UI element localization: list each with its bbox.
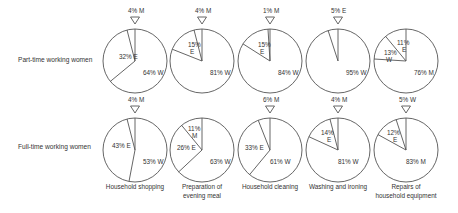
slice-label: 76% M (414, 69, 434, 76)
slice-label: 14% (321, 129, 334, 136)
pointer-triangle-icon (198, 17, 207, 24)
small-slice-label: 5% E (331, 7, 346, 14)
pie-2-5: 83% M12%E5% W (374, 96, 438, 182)
slice-label: 43% E (112, 142, 131, 149)
pie-2-3: 61% W33% E6% M (238, 96, 302, 182)
slice-label: 33% E (245, 144, 264, 151)
slice-label: 32% E (119, 53, 138, 60)
pie-1-4: 95% W5% E (306, 7, 370, 93)
pie-1-5: 76% M11%E13%W (374, 29, 438, 93)
pie-2-4: 81% W14%E4% M (306, 96, 370, 182)
column-label: Repairs ofhousehold equipment (366, 183, 446, 200)
small-slice-label: 6% M (263, 96, 279, 103)
slice-label: 26% E (177, 144, 196, 151)
slice-label: 81% W (210, 69, 232, 76)
pie-1-1: 64% W32% E4% M (103, 7, 167, 93)
slice-label: M (192, 132, 197, 139)
slice-label: 95% W (346, 69, 368, 76)
slice-label: 64% W (143, 69, 165, 76)
pointer-triangle-icon (131, 106, 140, 113)
slice-label: 15% (258, 41, 271, 48)
pie-1-3: 84% W15%E1% M (238, 7, 302, 93)
slice-label: E (393, 136, 397, 143)
slice-label: 83% M (406, 158, 426, 165)
slice-label: 61% W (270, 158, 292, 165)
pie-2-1: 53% W43% E4% M (103, 96, 167, 182)
slice-label: 13% (384, 49, 397, 56)
small-slice-label: 4% M (331, 96, 347, 103)
slice-label: 11% (188, 125, 201, 132)
small-slice-label: 5% W (399, 96, 417, 103)
pie-2-2: 63% W26% E11%M (170, 118, 234, 182)
pointer-triangle-icon (334, 106, 343, 113)
slice-label: 84% W (278, 69, 300, 76)
pointer-triangle-icon (266, 106, 275, 113)
slice-label: 15% (188, 41, 201, 48)
slice-label: W (386, 56, 393, 63)
slice-label: E (190, 48, 194, 55)
small-slice-label: 4% M (195, 7, 211, 14)
slice-label: 81% W (338, 158, 360, 165)
slice-label: 12% (387, 129, 400, 136)
slice-label: 63% W (210, 158, 232, 165)
slice-label: E (260, 48, 264, 55)
pointer-triangle-icon (334, 17, 343, 24)
slice-label: E (402, 46, 406, 53)
pie-chart-grid: 64% W32% E4% M81% W15%E4% M84% W15%E1% M… (0, 0, 458, 213)
pointer-triangle-icon (131, 17, 140, 24)
slice-label: 11% (397, 39, 410, 46)
small-slice-label: 4% M (128, 7, 144, 14)
pointer-triangle-icon (402, 106, 411, 113)
small-slice-label: 4% M (128, 96, 144, 103)
small-slice-label: 1% M (263, 7, 279, 14)
slice-label: 53% W (143, 158, 165, 165)
pointer-triangle-icon (266, 17, 275, 24)
slice-label: E (327, 136, 331, 143)
pie-1-2: 81% W15%E4% M (170, 7, 234, 93)
